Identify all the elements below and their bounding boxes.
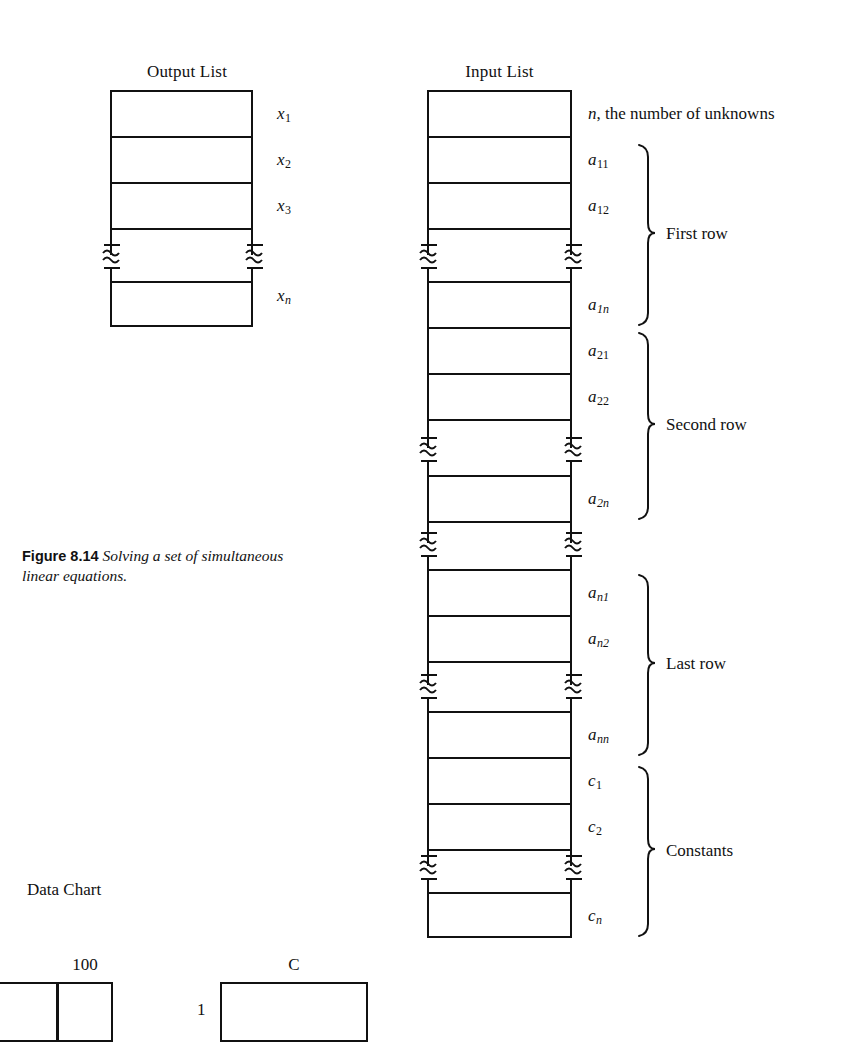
input-cell-label: c2	[588, 817, 602, 839]
figure-caption-label: Figure 8.14	[22, 548, 99, 564]
break-symbol-icon	[417, 436, 441, 468]
break-symbol-icon	[562, 243, 586, 275]
input-list-top-label: n, the number of unknowns	[588, 104, 775, 124]
group-label-first-row: First row	[666, 224, 728, 244]
break-symbol-icon	[562, 854, 586, 886]
output-list-header: Output List	[112, 62, 262, 82]
data-chart-box-c	[220, 982, 368, 1042]
input-cell	[427, 757, 572, 803]
data-chart-box-100	[57, 982, 113, 1042]
output-cell-label: x3	[277, 196, 291, 218]
brace-last-row	[636, 573, 658, 757]
input-cell-continuation	[427, 461, 572, 475]
break-symbol-icon	[417, 854, 441, 886]
output-cell	[110, 136, 253, 182]
break-symbol-icon	[243, 243, 267, 275]
data-chart-label-c: C	[220, 955, 368, 975]
output-cell	[110, 90, 253, 136]
input-cell-label: a21	[588, 341, 609, 363]
output-cell	[110, 228, 253, 255]
data-chart-label-1: 1	[197, 1000, 206, 1020]
input-cell	[427, 661, 572, 685]
input-cell	[427, 711, 572, 757]
input-cell	[427, 90, 572, 136]
output-cell-label: xn	[277, 286, 291, 308]
input-cell	[427, 327, 572, 373]
input-cell-continuation	[427, 879, 572, 892]
brace-first-row	[636, 143, 658, 327]
group-label-last-row: Last row	[666, 654, 726, 674]
break-symbol-icon	[562, 531, 586, 563]
input-cell-label: ann	[588, 725, 609, 747]
input-cell	[427, 803, 572, 849]
input-cell	[427, 615, 572, 661]
input-cell	[427, 136, 572, 182]
input-cell-continuation	[427, 268, 572, 281]
input-cell	[427, 281, 572, 327]
input-cell-label: an2	[588, 629, 609, 651]
break-symbol-icon	[562, 436, 586, 468]
output-cell	[110, 182, 253, 228]
output-cell	[110, 281, 253, 327]
input-cell-label: a1n	[588, 295, 609, 317]
input-cell-label: a2n	[588, 489, 609, 511]
input-cell-label: a12	[588, 196, 609, 218]
input-cell	[427, 182, 572, 228]
output-cell-label: x2	[277, 150, 291, 172]
break-symbol-icon	[417, 531, 441, 563]
input-cell-label: a22	[588, 387, 609, 409]
input-cell	[427, 228, 572, 255]
break-symbol-icon	[100, 243, 124, 275]
brace-constants	[636, 765, 658, 938]
input-cell-label: an1	[588, 583, 609, 605]
input-cell	[427, 849, 572, 866]
data-chart-title: Data Chart	[27, 880, 101, 900]
input-cell	[427, 373, 572, 419]
group-label-second-row: Second row	[666, 415, 747, 435]
input-cell	[427, 521, 572, 543]
break-symbol-icon	[417, 243, 441, 275]
input-cell	[427, 892, 572, 938]
input-cell-label: c1	[588, 771, 602, 793]
output-cell-continuation	[110, 268, 253, 281]
input-cell-label: cn	[588, 906, 602, 928]
input-list-header: Input List	[427, 62, 572, 82]
break-symbol-icon	[562, 673, 586, 705]
data-chart-label-100: 100	[57, 955, 113, 975]
figure-caption: Figure 8.14 Solving a set of simultaneou…	[22, 546, 322, 587]
input-cell	[427, 419, 572, 448]
input-cell-label: a11	[588, 150, 609, 172]
output-cell-label: x1	[277, 104, 291, 126]
data-chart-box-left	[0, 982, 58, 1042]
break-symbol-icon	[417, 673, 441, 705]
input-cell-continuation	[427, 556, 572, 569]
input-cell	[427, 475, 572, 521]
group-label-constants: Constants	[666, 841, 733, 861]
input-cell-continuation	[427, 698, 572, 711]
brace-second-row	[636, 331, 658, 521]
input-cell	[427, 569, 572, 615]
